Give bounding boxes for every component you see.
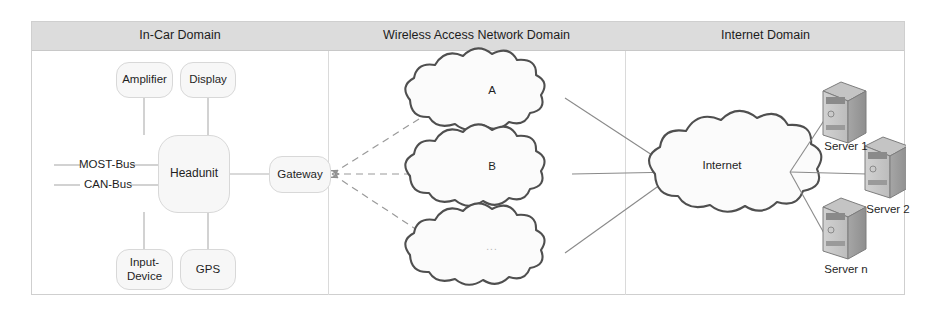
network-architecture-diagram: In-Car Domain Wireless Access Network Do… bbox=[31, 21, 905, 295]
node-display[interactable]: Display bbox=[180, 62, 236, 98]
server-2-caption: Server 2 bbox=[848, 203, 928, 215]
bus-label-can: CAN-Bus bbox=[84, 178, 132, 190]
node-amplifier[interactable]: Amplifier bbox=[116, 62, 173, 98]
node-headunit[interactable]: Headunit bbox=[158, 135, 230, 213]
cloud-label-ellipsis: ... bbox=[442, 241, 542, 252]
node-gateway[interactable]: Gateway bbox=[269, 156, 331, 193]
bus-label-most: MOST-Bus bbox=[79, 158, 135, 170]
node-gps[interactable]: GPS bbox=[180, 249, 236, 290]
node-input-device[interactable]: Input- Device bbox=[116, 249, 173, 290]
internet-cloud-label: Internet bbox=[672, 159, 772, 171]
cloud-label-b: B bbox=[442, 160, 542, 172]
cloud-label-a: A bbox=[442, 84, 542, 96]
server-1-caption: Server 1 bbox=[806, 140, 886, 152]
server-n-caption: Server n bbox=[806, 263, 886, 275]
server-1-icon bbox=[823, 82, 866, 143]
